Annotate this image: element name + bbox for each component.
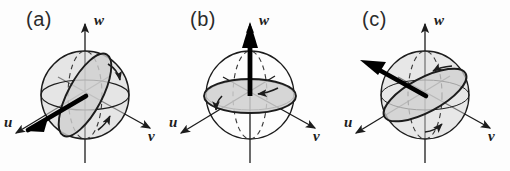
axis-label-u-b: u	[169, 114, 177, 131]
axis-label-u-a: u	[4, 114, 12, 131]
panel-b: (b) u	[160, 0, 330, 171]
vector-arrowhead-b	[242, 22, 258, 48]
axis-label-w-a: w	[94, 12, 104, 29]
axis-label-v-a: v	[148, 128, 155, 145]
axis-label-v-c: v	[488, 128, 495, 145]
panel-a-graphic	[0, 0, 170, 171]
panel-c-graphic	[330, 0, 510, 171]
axis-label-w-c: w	[434, 12, 444, 29]
panel-c: (c)	[330, 0, 500, 171]
axis-label-v-b: v	[313, 128, 320, 145]
axis-label-w-b: w	[259, 12, 269, 29]
axis-label-u-c: u	[344, 114, 352, 131]
panel-b-graphic	[160, 0, 330, 171]
figure-container: (a)	[0, 0, 510, 171]
panel-a: (a)	[0, 0, 170, 171]
